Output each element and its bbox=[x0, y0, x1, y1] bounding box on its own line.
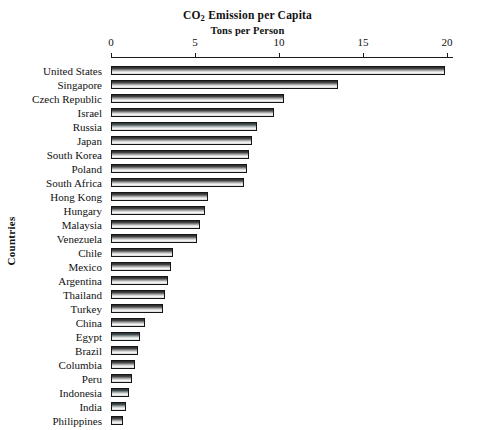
x-axis-line bbox=[111, 57, 453, 58]
bar bbox=[111, 150, 249, 159]
bar-row bbox=[111, 316, 453, 330]
x-axis-tick bbox=[111, 53, 112, 58]
category-label: Turkey bbox=[0, 302, 106, 316]
bar bbox=[111, 290, 165, 299]
bar-row bbox=[111, 260, 453, 274]
x-axis-tick bbox=[447, 53, 448, 58]
bar-row bbox=[111, 386, 453, 400]
category-label: South Africa bbox=[0, 176, 106, 190]
bar bbox=[111, 248, 173, 257]
category-label: Egypt bbox=[0, 330, 106, 344]
bar-row bbox=[111, 92, 453, 106]
category-label: Argentina bbox=[0, 274, 106, 288]
category-label: Philippines bbox=[0, 414, 106, 428]
bar-row bbox=[111, 218, 453, 232]
bar bbox=[111, 122, 257, 131]
category-label: India bbox=[0, 400, 106, 414]
bar bbox=[111, 206, 205, 215]
bar bbox=[111, 416, 123, 425]
category-label: Thailand bbox=[0, 288, 106, 302]
bar-row bbox=[111, 302, 453, 316]
bar-row bbox=[111, 106, 453, 120]
category-label: Singapore bbox=[0, 78, 106, 92]
bar bbox=[111, 66, 445, 75]
bar bbox=[111, 374, 132, 383]
category-labels: United StatesSingaporeCzech RepublicIsra… bbox=[0, 64, 106, 428]
category-label: Columbia bbox=[0, 358, 106, 372]
chart-subtitle: Tons per Person bbox=[0, 24, 495, 38]
x-axis-tick bbox=[195, 53, 196, 58]
bar-row bbox=[111, 190, 453, 204]
bar bbox=[111, 108, 274, 117]
bar bbox=[111, 192, 208, 201]
bar bbox=[111, 220, 200, 229]
category-label: South Korea bbox=[0, 148, 106, 162]
co2-emission-bar-chart: CO2 Emission per Capita Tons per Person … bbox=[0, 0, 495, 430]
x-axis-tick-label: 5 bbox=[192, 36, 198, 48]
category-label: Venezuela bbox=[0, 232, 106, 246]
bar bbox=[111, 136, 252, 145]
bar bbox=[111, 346, 138, 355]
bar bbox=[111, 178, 244, 187]
category-label: Czech Republic bbox=[0, 92, 106, 106]
bar-row bbox=[111, 78, 453, 92]
chart-title-subscript: 2 bbox=[201, 13, 205, 23]
category-label: Chile bbox=[0, 246, 106, 260]
chart-title-pre: CO bbox=[183, 9, 201, 21]
x-axis-tick-label: 15 bbox=[358, 36, 369, 48]
x-axis-tick bbox=[279, 53, 280, 58]
category-label: Indonesia bbox=[0, 386, 106, 400]
bar-row bbox=[111, 176, 453, 190]
category-label: China bbox=[0, 316, 106, 330]
bar-row bbox=[111, 414, 453, 428]
bar-row bbox=[111, 274, 453, 288]
bar bbox=[111, 304, 163, 313]
bar-row bbox=[111, 64, 453, 78]
category-label: Israel bbox=[0, 106, 106, 120]
bar-row bbox=[111, 358, 453, 372]
page-title: CO2 Emission per Capita bbox=[0, 8, 495, 24]
bar-row bbox=[111, 344, 453, 358]
bar bbox=[111, 164, 247, 173]
bar bbox=[111, 332, 140, 341]
x-axis-tick-label: 20 bbox=[442, 36, 453, 48]
bar bbox=[111, 234, 197, 243]
bar-row bbox=[111, 400, 453, 414]
bar-rows bbox=[111, 64, 453, 428]
bar-row bbox=[111, 246, 453, 260]
x-axis-tick-label: 10 bbox=[274, 36, 285, 48]
category-label: Hong Kong bbox=[0, 190, 106, 204]
category-label: Japan bbox=[0, 134, 106, 148]
category-label: Malaysia bbox=[0, 218, 106, 232]
bar-row bbox=[111, 120, 453, 134]
bar-row bbox=[111, 288, 453, 302]
x-axis-tick bbox=[363, 53, 364, 58]
bar-row bbox=[111, 330, 453, 344]
bar bbox=[111, 262, 171, 271]
bar-row bbox=[111, 134, 453, 148]
category-label: Poland bbox=[0, 162, 106, 176]
bar-row bbox=[111, 148, 453, 162]
category-label: United States bbox=[0, 64, 106, 78]
x-axis-tick-label: 0 bbox=[108, 36, 114, 48]
plot-area: 05101520 bbox=[111, 57, 453, 423]
category-label: Peru bbox=[0, 372, 106, 386]
bar-row bbox=[111, 232, 453, 246]
bar bbox=[111, 94, 284, 103]
bar bbox=[111, 276, 168, 285]
category-label: Hungary bbox=[0, 204, 106, 218]
bar bbox=[111, 318, 145, 327]
category-label: Mexico bbox=[0, 260, 106, 274]
category-label: Brazil bbox=[0, 344, 106, 358]
bar bbox=[111, 402, 126, 411]
bar-row bbox=[111, 372, 453, 386]
bar-row bbox=[111, 162, 453, 176]
bar bbox=[111, 360, 135, 369]
chart-title-block: CO2 Emission per Capita Tons per Person bbox=[0, 8, 495, 38]
chart-title-post: Emission per Capita bbox=[205, 9, 312, 21]
bar bbox=[111, 388, 129, 397]
bar bbox=[111, 80, 338, 89]
bar-row bbox=[111, 204, 453, 218]
category-label: Russia bbox=[0, 120, 106, 134]
